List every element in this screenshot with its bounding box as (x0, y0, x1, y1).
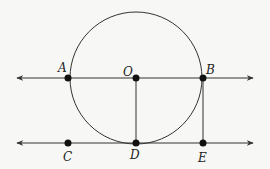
point-O: O (123, 65, 140, 82)
label-O: O (123, 65, 133, 79)
geometry-diagram: A O B C D E (0, 0, 270, 169)
label-B: B (205, 63, 215, 77)
label-A: A (57, 61, 67, 75)
label-E: E (197, 151, 207, 165)
label-C: C (63, 150, 72, 164)
label-D: D (129, 148, 140, 162)
